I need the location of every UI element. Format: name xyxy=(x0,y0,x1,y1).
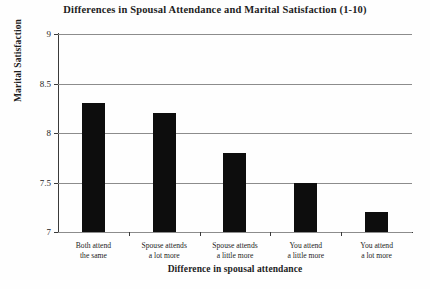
x-tick-label: Spouse attendsa lot more xyxy=(129,241,200,260)
x-tick-label: Spouse attendsa little more xyxy=(200,241,271,260)
x-tick-label: You attenda lot more xyxy=(341,241,412,260)
x-tick-label-line: You attend xyxy=(341,241,412,251)
chart-title-line-1: Differences in Spousal Attendance and Ma… xyxy=(63,4,279,15)
bar-slot xyxy=(129,34,200,232)
y-axis-title: Marital Satisfaction xyxy=(13,88,23,102)
y-tick-label: 7.5 xyxy=(40,178,51,187)
y-tick-label: 9 xyxy=(47,30,52,39)
bar-slot xyxy=(58,34,129,232)
y-tick-label: 8.5 xyxy=(40,79,51,88)
bar-slot xyxy=(270,34,341,232)
x-tick-label-line: a lot more xyxy=(129,251,200,261)
bar-slot xyxy=(200,34,271,232)
x-tick-label-line: Spouse attends xyxy=(200,241,271,251)
x-tick-label-line: Both attend xyxy=(58,241,129,251)
x-tick-mark xyxy=(200,232,201,236)
y-tick-label: 7 xyxy=(47,228,52,237)
x-tick-label-line: a little more xyxy=(200,251,271,261)
x-tick-mark xyxy=(341,232,342,236)
y-tick-mark xyxy=(54,232,58,233)
y-tick-label: 8 xyxy=(47,129,52,138)
bar[interactable] xyxy=(82,103,105,232)
bar-chart-figure: Differences in Spousal Attendance and Ma… xyxy=(0,0,430,289)
bar[interactable] xyxy=(294,183,317,233)
bar-slot xyxy=(341,34,412,232)
bar[interactable] xyxy=(153,113,176,232)
x-tick-label-line: You attend xyxy=(270,241,341,251)
gridline xyxy=(58,232,412,233)
plot-area: 77.588.59 Both attendthe sameSpouse atte… xyxy=(58,34,412,232)
x-tick-label-line: a lot more xyxy=(341,251,412,261)
x-tick-label-line: Spouse attends xyxy=(129,241,200,251)
bar[interactable] xyxy=(365,212,388,232)
x-tick-mark xyxy=(129,232,130,236)
x-tick-mark xyxy=(270,232,271,236)
chart-title: Differences in Spousal Attendance and Ma… xyxy=(60,3,370,16)
x-tick-label: Both attendthe same xyxy=(58,241,129,260)
x-tick-label-line: a little more xyxy=(270,251,341,261)
x-tick-label: You attenda little more xyxy=(270,241,341,260)
chart-title-line-2: Satisfaction (1-10) xyxy=(282,4,366,15)
bar[interactable] xyxy=(223,153,246,232)
x-axis-title: Difference in spousal attendance xyxy=(58,264,412,274)
x-tick-label-line: the same xyxy=(58,251,129,261)
